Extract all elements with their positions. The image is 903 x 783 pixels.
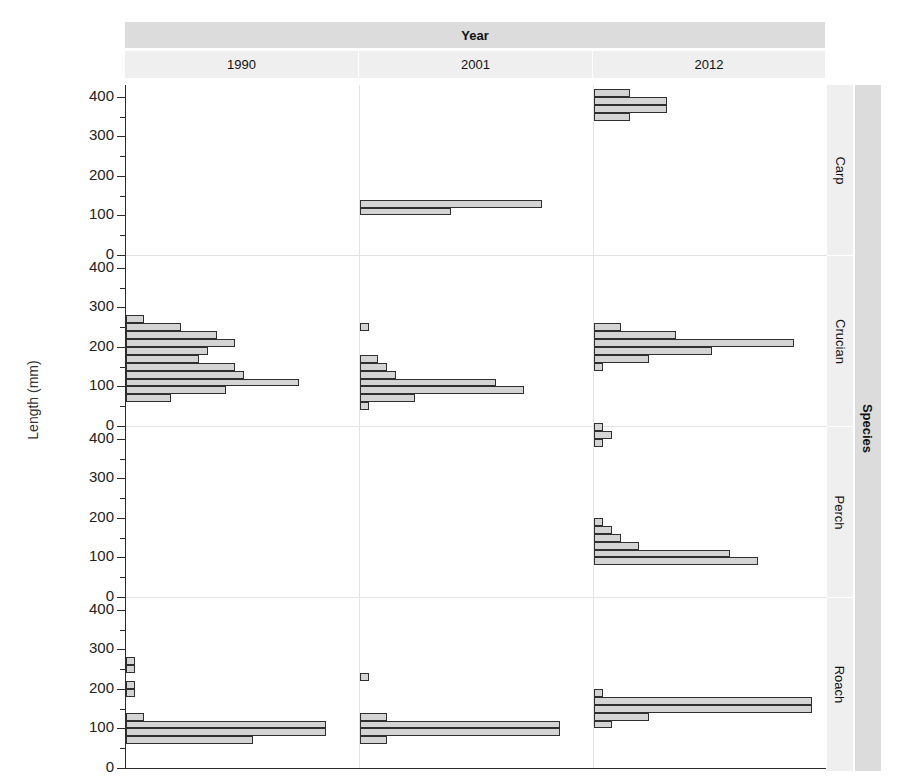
y-axis-tick-label: 0	[68, 758, 114, 775]
y-axis-minor-tick	[120, 748, 126, 749]
y-axis-major-tick	[117, 97, 126, 98]
histogram-bar	[126, 339, 235, 347]
y-axis-minor-tick	[120, 498, 126, 499]
panel-row-divider	[126, 426, 827, 427]
histogram-bar	[360, 355, 378, 363]
y-axis-minor-tick	[120, 156, 126, 157]
y-axis-minor-tick	[120, 117, 126, 118]
y-axis-major-tick	[117, 176, 126, 177]
y-axis-major-tick	[117, 307, 126, 308]
histogram-bar	[594, 89, 630, 97]
histogram-bar	[594, 363, 603, 371]
chart-figure: Year 1990 2001 2012 Species Carp Crucian…	[0, 0, 903, 783]
y-axis-minor-tick	[120, 235, 126, 236]
histogram-bar	[594, 550, 730, 558]
histogram-bar	[126, 657, 135, 665]
histogram-bar	[126, 689, 135, 697]
y-axis-major-tick	[117, 478, 126, 479]
histogram-bar	[594, 331, 676, 339]
histogram-bar	[360, 728, 560, 736]
histogram-bar	[126, 736, 253, 744]
histogram-bar	[360, 386, 524, 394]
panel-col-divider	[359, 85, 360, 768]
y-axis-minor-tick	[120, 288, 126, 289]
histogram-bar	[594, 355, 649, 363]
y-axis-major-tick	[117, 268, 126, 269]
y-axis-tick-label: 100	[68, 718, 114, 735]
histogram-bar	[126, 665, 135, 673]
y-axis-minor-tick	[120, 577, 126, 578]
y-axis-tick-label: 200	[68, 166, 114, 183]
histogram-bar	[594, 105, 667, 113]
histogram-bar	[126, 394, 171, 402]
y-axis-minor-tick	[120, 538, 126, 539]
histogram-bar	[360, 673, 369, 681]
y-axis-minor-tick	[120, 709, 126, 710]
histogram-bar	[126, 315, 144, 323]
histogram-bar	[360, 721, 560, 729]
panel-row-divider	[126, 597, 827, 598]
y-axis-tick-label: 200	[68, 337, 114, 354]
y-axis-tick-label: 200	[68, 679, 114, 696]
y-axis-tick-label: 300	[68, 639, 114, 656]
y-axis-tick-label: 100	[68, 205, 114, 222]
y-axis-tick-label: 400	[68, 429, 114, 446]
y-axis-minor-tick	[120, 196, 126, 197]
y-axis-major-tick	[117, 689, 126, 690]
y-axis-major-tick	[117, 347, 126, 348]
panel-carp-1990	[126, 85, 359, 255]
histogram-bar	[594, 339, 794, 347]
panel-perch-1990	[126, 427, 359, 597]
histogram-bar	[594, 347, 712, 355]
histogram-bar	[126, 323, 181, 331]
panel-perch-2012	[594, 427, 827, 597]
histogram-bar	[594, 431, 612, 439]
histogram-bar	[126, 347, 208, 355]
y-axis-minor-tick	[120, 630, 126, 631]
y-axis-major-tick	[117, 439, 126, 440]
y-axis-major-tick	[117, 649, 126, 650]
panel-roach-2001	[360, 598, 593, 768]
y-axis-major-tick	[117, 386, 126, 387]
histogram-bar	[360, 323, 369, 331]
y-axis-minor-tick	[120, 459, 126, 460]
histogram-bar	[360, 736, 387, 744]
histogram-bar	[126, 379, 299, 387]
histogram-bar	[126, 386, 226, 394]
histogram-bar	[360, 379, 496, 387]
histogram-bar	[594, 697, 812, 705]
y-axis-tick-label: 300	[68, 126, 114, 143]
y-axis-tick-label: 400	[68, 87, 114, 104]
y-axis-major-tick	[117, 518, 126, 519]
y-axis-tick-label: 400	[68, 600, 114, 617]
y-axis-tick-label: 400	[68, 258, 114, 275]
histogram-bar	[594, 518, 603, 526]
histogram-bar	[126, 331, 217, 339]
y-axis-major-tick	[117, 557, 126, 558]
histogram-bar	[126, 355, 199, 363]
histogram-bar	[126, 363, 235, 371]
histogram-bar	[594, 323, 621, 331]
panel-perch-2001	[360, 427, 593, 597]
histogram-bar	[126, 681, 135, 689]
y-axis-tick-label: 100	[68, 376, 114, 393]
histogram-bar	[594, 439, 603, 447]
histogram-bar	[594, 542, 639, 550]
histogram-bar	[594, 557, 758, 565]
panel-roach-2012	[594, 598, 827, 768]
histogram-bar	[594, 689, 603, 697]
histogram-bar	[360, 363, 387, 371]
histogram-bar	[126, 713, 144, 721]
histogram-bar	[360, 371, 396, 379]
histogram-bar	[360, 713, 387, 721]
histogram-bar	[594, 526, 612, 534]
histogram-bar	[360, 208, 451, 216]
histogram-bar	[594, 705, 812, 713]
y-axis-minor-tick	[120, 406, 126, 407]
y-axis-major-tick	[117, 136, 126, 137]
y-axis-major-tick	[117, 610, 126, 611]
histogram-bar	[594, 113, 630, 121]
histogram-bar	[126, 371, 244, 379]
panel-carp-2001	[360, 85, 593, 255]
x-axis-line	[125, 768, 826, 769]
